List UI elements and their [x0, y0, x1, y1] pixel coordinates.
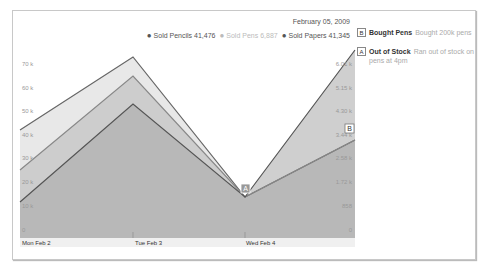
y-left-tick: 60 k — [22, 85, 34, 91]
y-right-tick: 858 — [342, 203, 353, 209]
y-right-tick: 6.01 k — [336, 61, 353, 67]
x-axis-bar — [20, 238, 355, 247]
y-right-tick: 1.72 k — [336, 179, 353, 185]
y-left-tick: 70 k — [22, 61, 34, 67]
annotation-item-b[interactable]: B Bought PensBought 200k pens — [357, 28, 475, 37]
y-right-tick: 5.15 k — [336, 85, 353, 91]
y-left-tick: 50 k — [22, 108, 34, 114]
annotation-flag-a[interactable]: A — [241, 184, 250, 193]
y-right-tick: 2.58 k — [336, 155, 353, 161]
x-tick-label: Wed Feb 4 — [246, 240, 275, 246]
annotation-title: Bought Pens — [369, 29, 412, 36]
x-tick-label: Tue Feb 3 — [135, 240, 162, 246]
y-left-tick: 20 k — [22, 179, 34, 185]
annotation-key: B — [357, 28, 366, 37]
svg-text:A: A — [243, 185, 248, 192]
y-left-tick: 10 k — [22, 203, 34, 209]
y-right-tick: 4.30 k — [336, 108, 353, 114]
y-left-tick: 30 k — [22, 155, 34, 161]
x-tick-label: Mon Feb 2 — [22, 240, 51, 246]
annotation-flag-b[interactable]: B — [345, 124, 354, 133]
annotation-item-a[interactable]: A Out of StockRan out of stock on pens a… — [357, 47, 475, 65]
annotation-title: Out of Stock — [369, 48, 411, 55]
annotation-desc: Bought 200k pens — [415, 29, 471, 36]
annotation-key: A — [357, 47, 366, 56]
y-left-tick: 40 k — [22, 132, 34, 138]
annotation-panel: B Bought PensBought 200k pens A Out of S… — [357, 28, 475, 75]
svg-text:B: B — [347, 125, 352, 132]
